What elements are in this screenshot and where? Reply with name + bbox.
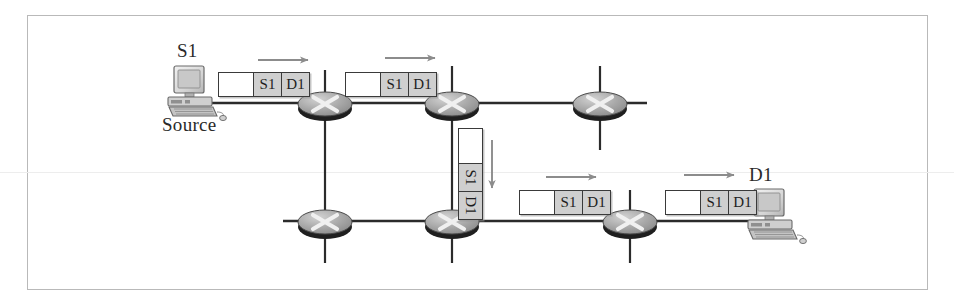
packet-top-2[interactable]: S1 D1 (345, 72, 437, 97)
figure-canvas: S1 Source D1 S1 D1 S1 D1 S1 D1 S1 D1 S1 … (0, 0, 954, 303)
packet-top-1-cell-source: S1 (253, 73, 281, 96)
flow-arrows (258, 58, 734, 188)
packet-bottom-2-cell-destination: D1 (728, 191, 756, 214)
destination-host-name-label: D1 (749, 164, 773, 186)
packet-bottom-1[interactable]: S1 D1 (519, 190, 611, 215)
packet-bottom-2[interactable]: S1 D1 (665, 190, 757, 215)
packet-bottom-1-cell-source: S1 (554, 191, 582, 214)
packet-bottom-1-cell-destination: D1 (582, 191, 610, 214)
switch-bottom-3[interactable] (603, 210, 657, 239)
packet-bottom-2-cell-payload (666, 191, 700, 214)
packet-top-1[interactable]: S1 D1 (218, 72, 310, 97)
packet-vertical-cell-source: S1 (459, 163, 482, 191)
source-host-role-label: Source (162, 114, 217, 136)
packet-top-2-cell-payload (346, 73, 380, 96)
packet-top-2-cell-destination: D1 (408, 73, 436, 96)
packet-top-1-cell-payload (219, 73, 253, 96)
packet-bottom-1-cell-payload (520, 191, 554, 214)
packet-vertical[interactable]: S1 D1 (458, 128, 483, 220)
switch-top-3[interactable] (573, 92, 627, 121)
packet-top-2-cell-source: S1 (380, 73, 408, 96)
packet-vertical-cell-destination: D1 (459, 191, 482, 219)
packet-vertical-cell-payload (459, 129, 482, 163)
switch-bottom-1[interactable] (298, 210, 352, 239)
source-host-name-label: S1 (177, 40, 198, 62)
packet-top-1-cell-destination: D1 (281, 73, 309, 96)
packet-bottom-2-cell-source: S1 (700, 191, 728, 214)
